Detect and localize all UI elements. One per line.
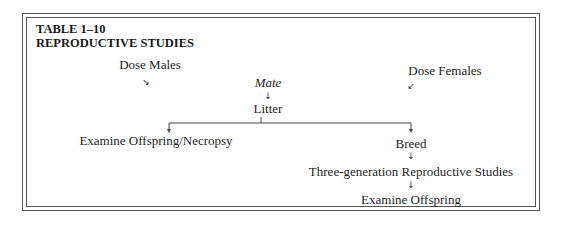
arrow-down-icon: ↓ <box>407 151 415 161</box>
node-examine-offspring-necropsy: Examine Offspring/Necropsy <box>79 133 232 148</box>
branch-right-arrowhead <box>409 129 413 133</box>
branch-connector <box>0 0 561 233</box>
node-examine-offspring: Examine Offspring <box>361 192 461 207</box>
arrow-down-icon: ↓ <box>407 180 415 190</box>
node-three-generation: Three-generation Reproductive Studies <box>309 164 513 179</box>
node-breed: Breed <box>395 136 426 151</box>
